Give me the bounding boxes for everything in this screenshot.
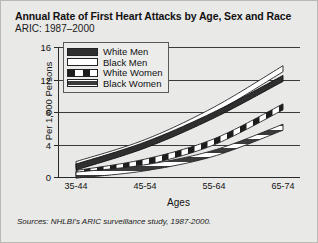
x-axis-label: Ages xyxy=(58,197,299,208)
legend-swatch-black-men xyxy=(67,58,98,66)
legend-label-white-men: White Men xyxy=(103,46,148,57)
x-tick-label: 35-44 xyxy=(64,181,87,191)
y-tick-label: 0 xyxy=(46,177,51,178)
legend-item-white-men[interactable]: White Men xyxy=(67,47,162,57)
legend-swatch-white-men xyxy=(67,48,98,56)
x-tick-label: 65-74 xyxy=(271,181,294,191)
legend-item-white-women[interactable]: White Women xyxy=(67,68,162,78)
y-axis-label: Per 1,000 Persons xyxy=(43,62,54,141)
y-tick-label: 4 xyxy=(46,145,51,146)
legend-label-white-women: White Women xyxy=(103,67,162,78)
legend-swatch-black-women xyxy=(67,79,98,87)
chart-figure: Annual Rate of First Heart Attacks by Ag… xyxy=(0,0,318,243)
y-tick-label: 12 xyxy=(40,80,51,81)
legend-item-black-men[interactable]: Black Men xyxy=(67,57,162,67)
y-tick-label: 16 xyxy=(40,47,51,48)
legend-label-black-men: Black Men xyxy=(103,57,147,68)
chart-legend: White Men Black Men White Women Black Wo… xyxy=(63,42,169,93)
x-tick-label: 55-64 xyxy=(202,181,225,191)
source-note: Sources: NHLBI's ARIC surveillance study… xyxy=(17,217,211,226)
y-tick-label: 8 xyxy=(46,112,51,113)
legend-label-black-women: Black Women xyxy=(103,78,161,89)
legend-item-black-women[interactable]: Black Women xyxy=(67,78,162,88)
chart-subtitle: ARIC: 1987–2000 xyxy=(15,23,95,34)
chart-title: Annual Rate of First Heart Attacks by Ag… xyxy=(15,11,311,22)
legend-swatch-white-women xyxy=(67,69,98,77)
x-tick-label: 45-54 xyxy=(133,181,156,191)
